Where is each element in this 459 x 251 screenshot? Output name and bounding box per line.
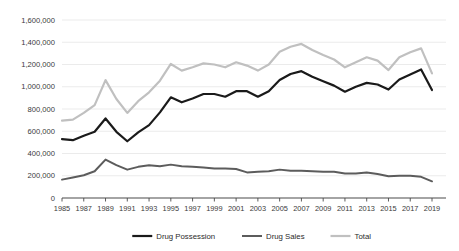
chart-canvas: 0200,000400,000600,000800,0001,000,0001,… [0, 0, 459, 251]
x-axis-tick-label: 2019 [424, 204, 440, 213]
x-axis-tick-label: 1993 [141, 204, 157, 213]
legend-label-drug-possession: Drug Possession [156, 232, 215, 241]
x-axis-tick-label: 1999 [206, 204, 222, 213]
x-axis-tick-label: 2015 [380, 204, 396, 213]
x-axis-tick-label: 1995 [163, 204, 179, 213]
legend-label-drug-sales: Drug Sales [266, 232, 305, 241]
x-axis-labels: 1985198719891991199319951997199920012003… [54, 204, 440, 213]
series-line-drug-possession [62, 70, 432, 142]
series-line-drug-sales [62, 160, 432, 182]
y-axis-tick-label: 1,600,000 [21, 16, 55, 25]
line-chart: 0200,000400,000600,000800,0001,000,0001,… [0, 0, 459, 251]
y-axis-tick-label: 200,000 [28, 171, 55, 180]
x-axis-tick-label: 1987 [76, 204, 92, 213]
x-axis-tick-label: 1991 [119, 204, 135, 213]
y-axis-tick-label: 1,000,000 [21, 82, 55, 91]
y-axis-tick-label: 1,200,000 [21, 60, 55, 69]
legend-label-total: Total [355, 232, 372, 241]
x-axis-tick-label: 2003 [250, 204, 266, 213]
x-axis-tick-label: 1985 [54, 204, 70, 213]
x-axis-tick-label: 2007 [293, 204, 309, 213]
y-axis-tick-label: 400,000 [28, 149, 55, 158]
y-axis-tick-label: 800,000 [28, 105, 55, 114]
x-axis-tick-label: 2017 [402, 204, 418, 213]
y-axis-tick-label: 1,400,000 [21, 38, 55, 47]
x-axis-tick-label: 2009 [315, 204, 331, 213]
y-axis-labels: 0200,000400,000600,000800,0001,000,0001,… [21, 16, 55, 203]
y-axis-tick-label: 0 [51, 194, 55, 203]
x-axis-tick-label: 2011 [337, 204, 353, 213]
x-axis-tick-label: 1997 [184, 204, 200, 213]
gridlines [62, 20, 446, 176]
x-axis-tick-label: 2013 [358, 204, 374, 213]
y-axis-tick-label: 600,000 [28, 127, 55, 136]
x-axis-tick-label: 1989 [97, 204, 113, 213]
chart-legend: Drug PossessionDrug SalesTotal [132, 232, 371, 241]
x-axis [62, 198, 446, 202]
x-axis-tick-label: 2001 [228, 204, 244, 213]
x-axis-tick-label: 2005 [271, 204, 287, 213]
